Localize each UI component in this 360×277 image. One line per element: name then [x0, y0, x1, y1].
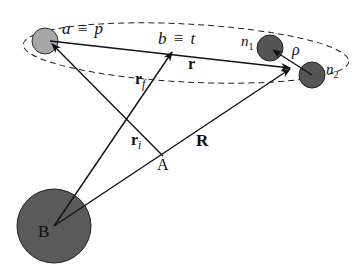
label-vector-rf: rf [135, 70, 147, 91]
diagram-canvas: a ≡ p b ≡ t r rf ri R A B n1 n2 ρ [0, 0, 360, 277]
label-a-equiv-p: a ≡ p [62, 19, 103, 38]
label-vector-R: R [196, 131, 209, 150]
label-point-A: A [157, 156, 169, 173]
label-vector-ri: ri [131, 131, 141, 152]
label-target-B: B [38, 222, 49, 241]
vector-ri-arrow [52, 44, 163, 156]
label-b-equiv-t: b ≡ t [158, 29, 197, 48]
vector-R-arrow [54, 69, 290, 226]
label-n1: n1 [241, 33, 254, 52]
label-n2: n2 [326, 61, 339, 80]
vector-rf-arrow [54, 52, 172, 226]
particle-n1-circle [257, 35, 283, 61]
label-rho: ρ [291, 41, 300, 59]
label-vector-r: r [188, 55, 195, 72]
